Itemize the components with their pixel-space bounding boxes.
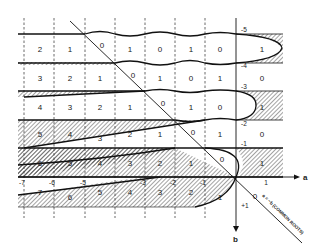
svg-text:0: 0 bbox=[220, 155, 225, 164]
svg-text:5: 5 bbox=[98, 188, 103, 197]
stability-chart-diagram: a b -7 -6 -5 -3 -2 -1 1 -5 -4 -3 -2 -1 +… bbox=[0, 0, 311, 251]
svg-text:1: 1 bbox=[158, 130, 163, 139]
svg-text:3: 3 bbox=[68, 103, 73, 112]
svg-text:0: 0 bbox=[218, 103, 223, 112]
svg-text:1: 1 bbox=[218, 74, 223, 83]
a-axis-label: a bbox=[303, 173, 308, 182]
svg-text:1: 1 bbox=[260, 103, 265, 112]
svg-text:3: 3 bbox=[158, 188, 163, 197]
svg-text:1: 1 bbox=[218, 130, 223, 139]
svg-text:6: 6 bbox=[38, 159, 43, 168]
svg-text:-5: -5 bbox=[241, 26, 247, 33]
svg-text:-2: -2 bbox=[241, 120, 247, 127]
svg-text:1: 1 bbox=[260, 45, 265, 54]
b-axis-arrow-icon bbox=[233, 226, 239, 232]
svg-text:0: 0 bbox=[161, 99, 166, 108]
svg-text:-1: -1 bbox=[200, 179, 206, 186]
svg-text:1: 1 bbox=[98, 74, 103, 83]
a-axis-arrow-icon bbox=[294, 175, 300, 180]
svg-text:3: 3 bbox=[98, 134, 103, 143]
svg-text:5: 5 bbox=[68, 159, 73, 168]
svg-text:1: 1 bbox=[260, 159, 265, 168]
svg-text:2: 2 bbox=[128, 130, 133, 139]
svg-text:-6: -6 bbox=[49, 179, 55, 186]
svg-text:1: 1 bbox=[128, 45, 133, 54]
svg-text:2: 2 bbox=[158, 159, 163, 168]
svg-text:1: 1 bbox=[158, 74, 163, 83]
svg-text:+1: +1 bbox=[241, 202, 249, 209]
diagonal-zero-label: 0 bbox=[253, 192, 258, 201]
svg-text:-1: -1 bbox=[241, 140, 247, 147]
svg-text:5: 5 bbox=[38, 130, 43, 139]
svg-text:1: 1 bbox=[218, 193, 223, 202]
svg-text:0: 0 bbox=[191, 128, 196, 137]
svg-text:1: 1 bbox=[189, 103, 194, 112]
svg-text:1: 1 bbox=[189, 45, 194, 54]
svg-text:4: 4 bbox=[98, 159, 103, 168]
diagonal-common-roots-label: a = −b (COMMON ROOTS) bbox=[261, 193, 305, 236]
svg-text:0: 0 bbox=[218, 45, 223, 54]
svg-text:1: 1 bbox=[264, 179, 268, 186]
svg-text:0: 0 bbox=[260, 74, 265, 83]
svg-text:2: 2 bbox=[98, 103, 103, 112]
svg-text:1: 1 bbox=[189, 159, 194, 168]
svg-text:0: 0 bbox=[189, 74, 194, 83]
svg-text:4: 4 bbox=[38, 103, 43, 112]
svg-text:2: 2 bbox=[38, 45, 43, 54]
svg-text:0: 0 bbox=[131, 71, 136, 80]
svg-text:-5: -5 bbox=[80, 179, 86, 186]
svg-text:2: 2 bbox=[189, 188, 194, 197]
svg-text:-3: -3 bbox=[241, 83, 247, 90]
svg-text:7: 7 bbox=[38, 188, 43, 197]
svg-text:-3: -3 bbox=[140, 179, 146, 186]
svg-text:0: 0 bbox=[158, 45, 163, 54]
b-axis-label: b bbox=[233, 235, 238, 244]
svg-text:-2: -2 bbox=[170, 179, 176, 186]
svg-text:4: 4 bbox=[68, 130, 73, 139]
svg-text:6: 6 bbox=[68, 193, 73, 202]
svg-text:0: 0 bbox=[100, 41, 105, 50]
svg-text:4: 4 bbox=[128, 188, 133, 197]
svg-text:2: 2 bbox=[68, 74, 73, 83]
svg-text:-4: -4 bbox=[241, 62, 247, 69]
svg-text:3: 3 bbox=[38, 74, 43, 83]
svg-text:-7: -7 bbox=[19, 179, 25, 186]
svg-text:1: 1 bbox=[128, 103, 133, 112]
svg-text:0: 0 bbox=[260, 130, 265, 139]
svg-text:3: 3 bbox=[128, 159, 133, 168]
svg-text:1: 1 bbox=[68, 45, 73, 54]
